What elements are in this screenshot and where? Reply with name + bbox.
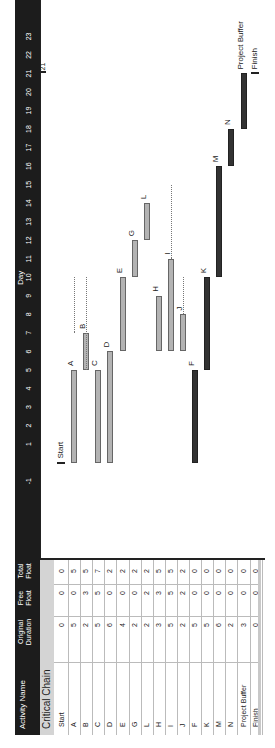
total-float-cell: 0 <box>58 569 65 573</box>
table-row: L222 <box>141 560 154 735</box>
day-tick: 11 <box>25 250 32 268</box>
total-float-cell: 2 <box>179 569 186 573</box>
task-bar[interactable] <box>204 277 210 370</box>
header-original-duration: Original Duration <box>17 614 33 650</box>
task-bar[interactable] <box>95 370 101 463</box>
duration-cell: 3 <box>240 623 247 627</box>
task-label: L <box>139 195 148 199</box>
activity-name-cell: B <box>82 722 89 727</box>
free-float-cell: 0 <box>203 591 210 595</box>
table-row: M600 <box>213 560 226 735</box>
day-tick: 21 <box>25 64 32 82</box>
task-label: C <box>90 360 99 366</box>
duration-cell: 2 <box>131 623 138 627</box>
day-tick: 12 <box>25 231 32 249</box>
task-bar[interactable] <box>228 129 234 166</box>
table-row: I555 <box>165 560 178 735</box>
task-bar[interactable] <box>144 203 150 240</box>
task-bar[interactable] <box>216 166 222 277</box>
duration-cell: 5 <box>191 623 198 627</box>
activity-name-cell: N <box>227 722 234 727</box>
end-marker-label: 21 <box>39 63 46 71</box>
day-tick: 10 <box>25 268 32 286</box>
day-tick: 15 <box>25 176 32 194</box>
table-row: Project Buffer300 <box>238 560 251 735</box>
duration-cell: 2 <box>143 623 150 627</box>
task-bar[interactable] <box>168 259 174 352</box>
task-label: F <box>187 361 196 366</box>
day-tick: 19 <box>25 102 32 120</box>
day-tick: 2 <box>25 417 32 435</box>
total-float-cell: 0 <box>191 569 198 573</box>
free-float-cell: 3 <box>155 591 162 595</box>
free-float-cell: 0 <box>215 591 222 595</box>
task-label: E <box>115 268 124 273</box>
day-tick: 18 <box>25 120 32 138</box>
activity-name-cell: Project Buffer <box>240 685 247 727</box>
table-row: G202 <box>129 560 142 735</box>
total-float-cell: 0 <box>240 569 247 573</box>
day-tick: 6 <box>25 342 32 360</box>
task-label: A <box>66 361 75 366</box>
free-float-cell: 0 <box>58 591 65 595</box>
free-float-cell: 0 <box>240 591 247 595</box>
task-bar[interactable] <box>156 296 162 352</box>
day-tick: -1 <box>25 472 32 490</box>
duration-cell: 5 <box>70 623 77 627</box>
header-bar: Activity Name Original Duration Free Flo… <box>15 0 40 735</box>
total-float-cell: 2 <box>143 569 150 573</box>
task-bar[interactable] <box>132 240 138 277</box>
free-float-cell: 5 <box>94 591 101 595</box>
day-tick: 22 <box>25 46 32 64</box>
task-label: N <box>223 119 232 125</box>
activity-name-cell: K <box>203 722 210 727</box>
duration-cell: 4 <box>119 623 126 627</box>
free-float-cell: 2 <box>179 591 186 595</box>
day-tick: 14 <box>25 194 32 212</box>
day-tick: 13 <box>25 213 32 231</box>
milestone-marker <box>57 462 65 464</box>
duration-cell: 5 <box>203 623 210 627</box>
total-float-cell: 5 <box>82 569 89 573</box>
group-label: Critical Chain <box>41 670 52 729</box>
task-bar[interactable] <box>241 73 247 129</box>
task-bar[interactable] <box>180 314 186 351</box>
day-tick: 1 <box>25 435 32 453</box>
activity-name-cell: L <box>143 723 150 727</box>
free-float-cell: 0 <box>191 591 198 595</box>
day-tick: 8 <box>25 305 32 323</box>
task-bar[interactable] <box>71 370 77 463</box>
duration-cell: 2 <box>179 623 186 627</box>
task-bar[interactable] <box>107 351 113 462</box>
free-float-cell: 3 <box>82 591 89 595</box>
table-row: K500 <box>201 560 214 735</box>
task-label: D <box>102 342 111 348</box>
task-label: G <box>127 230 136 236</box>
task-bar[interactable] <box>192 370 198 463</box>
free-float-cell: 2 <box>143 591 150 595</box>
timeline-title: Day <box>16 271 25 285</box>
activity-name-cell: G <box>131 722 138 727</box>
activity-name-cell: F <box>191 723 198 727</box>
group-critical-chain: Critical Chain <box>40 560 54 735</box>
free-float-cell: 0 <box>119 591 126 595</box>
total-float-cell: 2 <box>131 569 138 573</box>
float-line <box>183 277 184 314</box>
column-divider <box>54 662 258 663</box>
total-float-cell: 5 <box>155 569 162 573</box>
left-axis-line <box>40 558 265 560</box>
duration-cell: 6 <box>106 623 113 627</box>
day-tick: 17 <box>25 139 32 157</box>
timeline-ticks: -11234567891011121314151617181920212223 <box>25 0 39 560</box>
activity-name-cell: D <box>106 722 113 727</box>
task-label: M <box>211 155 220 162</box>
activity-name-cell: J <box>179 724 186 728</box>
day-tick: 23 <box>25 27 32 45</box>
task-bar[interactable] <box>120 277 126 351</box>
activity-name-cell: I <box>167 725 174 727</box>
day-tick: 3 <box>25 398 32 416</box>
activity-table: Critical Chain Start000A505B235C557D602E… <box>40 560 265 735</box>
total-float-cell: 7 <box>94 569 101 573</box>
free-float-cell: 0 <box>227 591 234 595</box>
duration-cell: 5 <box>94 623 101 627</box>
